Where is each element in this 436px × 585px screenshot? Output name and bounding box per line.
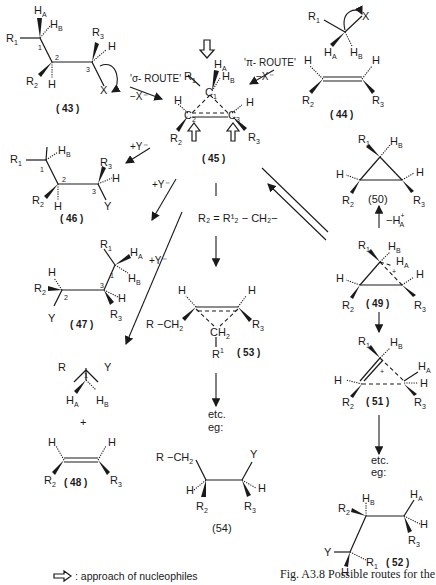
compound-label-46: ( 46 ) xyxy=(60,213,83,224)
atom-r2: R2 xyxy=(26,75,38,89)
eg-label: eg: xyxy=(371,466,386,478)
compound-43: R1 HA HB 1 2 3 R2 H R3 H X ( 43 ) xyxy=(6,4,117,114)
compound-label-47: ( 47 ) xyxy=(70,319,93,330)
atom-h: H xyxy=(372,54,380,66)
atom-r1: R1 xyxy=(308,10,320,24)
atom-y: Y xyxy=(324,546,332,558)
minus-ha-label: −H+A xyxy=(386,212,404,228)
atom-r1: R1 xyxy=(100,238,112,252)
plus-y-label: +Y⁻ xyxy=(149,255,167,266)
atom-ha: HA xyxy=(410,488,423,502)
atom-h: H xyxy=(186,484,194,496)
atom-ha: HA xyxy=(66,394,79,408)
atom-r: R xyxy=(58,361,66,373)
atom-h: H xyxy=(334,374,342,386)
etc-label: etc. xyxy=(208,408,226,420)
locant: 2 xyxy=(62,176,66,183)
positive-charge: + xyxy=(392,268,396,275)
atom-h: H xyxy=(336,168,344,180)
locant: 2 xyxy=(64,294,68,301)
atom-ha: HA xyxy=(418,360,431,374)
nucleophile-approach-arrow xyxy=(227,123,239,141)
atom-r2: R2 xyxy=(170,132,182,146)
legend-text: : approach of nucleophiles xyxy=(75,570,198,582)
atom-h: H xyxy=(174,94,182,106)
atom-h: H xyxy=(48,436,56,448)
atom-r2: R2 xyxy=(44,474,56,488)
atom-r1: R1 xyxy=(358,335,370,349)
atom-r1: R1 xyxy=(358,239,370,253)
atom-h: H xyxy=(416,166,424,178)
pi-route: 'π- ROUTE' −X⁻ xyxy=(244,57,296,84)
atom-y: Y xyxy=(250,448,258,460)
atom-h: H xyxy=(336,272,344,284)
atom-ha: HA xyxy=(34,4,47,18)
atom-h: H xyxy=(108,436,116,448)
atom-h: H xyxy=(54,200,62,212)
atom-h: H xyxy=(48,266,56,278)
atom-x: X xyxy=(362,10,370,22)
atom-r2: R2 xyxy=(196,500,208,514)
atom-h: H xyxy=(416,268,424,280)
atom-r3: R3 xyxy=(252,318,264,332)
compound-52: R2 HB HA H R3 Y R1 H ( 52 ) xyxy=(324,488,428,578)
compound-51: + R1 HB HA H H R2 R3 ( 51 ) etc. eg: xyxy=(334,335,431,478)
eg-label: eg: xyxy=(208,421,223,433)
atom-r2: R2 xyxy=(342,396,354,410)
nucleophile-approach-arrow xyxy=(188,123,200,141)
atom-r3: R3 xyxy=(414,396,426,410)
open-arrow-icon xyxy=(54,571,71,581)
atom-r2: R2 xyxy=(302,94,314,108)
compound-49: R1 HB HA + H H R2 R3 ( 49 ) xyxy=(336,239,426,332)
compound-46: R1 HB 1 2 3 R2 H R3 H Y ( 46 ) xyxy=(10,144,120,224)
compound-47: R1 HA HB 1 3 2 H R2 H R3 Y ( 47 ) xyxy=(34,238,143,330)
atom-r3: R3 xyxy=(244,500,256,514)
atom-r2: R2 xyxy=(34,282,46,296)
atom-hb: HB xyxy=(50,18,63,32)
atom-r3: R3 xyxy=(414,299,426,313)
arrows-from-45: +Y⁻ +Y⁻ +Y⁻ R₂ = R¹₂ − CH₂− xyxy=(126,141,328,344)
atom-r3: R3 xyxy=(372,94,384,108)
atom-r3: R3 xyxy=(408,534,420,548)
atom-r3: R3 xyxy=(92,26,104,40)
compound-label-44: ( 44 ) xyxy=(330,109,353,120)
atom-y: Y xyxy=(104,361,112,373)
atom-r2: R2 xyxy=(338,502,350,516)
atom-ha: HA xyxy=(324,46,337,60)
locant: 3 xyxy=(86,66,90,73)
compound-label-53: ( 53 ) xyxy=(237,347,260,358)
atom-r2-prime: R1 xyxy=(212,347,224,360)
atom-hb: HB xyxy=(388,240,401,254)
substitution-label: R₂ = R¹₂ − CH₂− xyxy=(198,212,278,224)
atom-hb: HB xyxy=(128,272,141,286)
atom-hb: HB xyxy=(96,394,109,408)
plus-sign: + xyxy=(80,416,86,428)
atom-h: H xyxy=(246,96,254,108)
atom-hb: HB xyxy=(58,144,71,158)
atom-r2: R2 xyxy=(342,194,354,208)
locant: 3 xyxy=(92,188,96,195)
positive-charge: + xyxy=(380,368,384,375)
compound-label-45: ( 45 ) xyxy=(202,153,225,164)
atom-h: H xyxy=(248,284,256,296)
atom-hb: HB xyxy=(350,46,363,60)
atom-r3: R3 xyxy=(100,156,112,170)
atom-h: H xyxy=(48,78,56,90)
atom-c1: C1 xyxy=(205,86,217,100)
compound-50: R1 HB H H R2 R3 (50) −H+A xyxy=(336,133,425,228)
atom-r1: R1 xyxy=(358,133,370,147)
locant: 1 xyxy=(84,372,88,379)
locant: 1 xyxy=(110,272,114,279)
atom-h: H xyxy=(112,172,120,184)
atom-h: H xyxy=(420,377,428,389)
compound-44: R1 X HA HB H H R2 R3 ( 44 ) xyxy=(302,10,384,120)
atom-h: H xyxy=(108,40,116,52)
atom-h: H xyxy=(304,54,312,66)
atom-hb: HB xyxy=(390,336,403,350)
locant: 2 xyxy=(55,54,59,61)
atom-hb: HB xyxy=(390,135,403,149)
pi-route-label: 'π- ROUTE' xyxy=(244,57,296,68)
atom-r3: R3 xyxy=(110,474,122,488)
compound-54: R −CH2 Y H H R2 R3 (54) xyxy=(156,448,266,534)
atom-y: Y xyxy=(48,312,56,324)
